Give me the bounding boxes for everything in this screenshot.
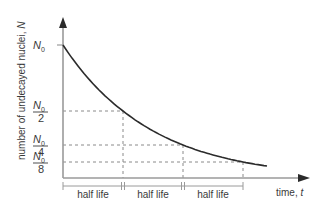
decay-curve [63, 45, 267, 166]
half-life-markers: half lifehalf lifehalf life [63, 182, 243, 200]
x-axis-label: time, t [276, 187, 304, 198]
y-tick-num: N0 [33, 133, 45, 147]
y-tick-label: N02 [33, 99, 48, 124]
decay-chart: N0N02N04N08 half lifehalf lifehalf life … [0, 0, 330, 212]
y-tick-label: N08 [33, 150, 48, 175]
half-life-label: half life [137, 189, 169, 200]
y-tick-labels: N0N02N04N08 [33, 39, 48, 175]
half-life-label: half life [77, 189, 109, 200]
dashed-guides [57, 45, 243, 178]
y-tick-num: N0 [33, 39, 45, 53]
y-tick-num: N0 [33, 99, 45, 113]
half-life-label: half life [197, 189, 229, 200]
y-tick-den: 2 [38, 112, 44, 124]
y-axis-arrow-icon [59, 17, 67, 28]
y-axis-label: number of undecayed nuclei, N [16, 21, 27, 160]
y-tick-den: 8 [38, 163, 44, 175]
y-tick-label: N0 [33, 39, 45, 53]
x-axis-arrow-icon [298, 174, 310, 182]
